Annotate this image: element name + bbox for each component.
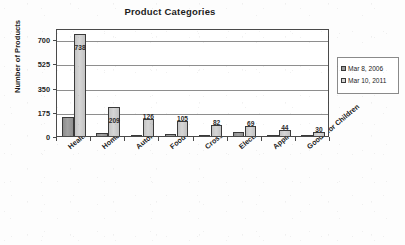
bar-value-label: 69: [247, 120, 254, 127]
bar: [96, 133, 108, 136]
x-axis-tick-mark: [295, 137, 296, 141]
bars-layer: 73820912610582694430: [57, 30, 328, 136]
y-axis-tick-label: 0: [14, 133, 50, 142]
x-axis-tick-mark: [124, 137, 125, 141]
y-axis-tick-label: 700: [14, 36, 50, 45]
bar-value-label: 105: [177, 115, 188, 122]
bar: [233, 132, 245, 136]
bar: [211, 125, 223, 136]
legend-item: Mar 10, 2011: [341, 77, 396, 84]
x-axis-tick-mark: [329, 137, 330, 141]
bar: [165, 134, 177, 136]
plot-area: 73820912610582694430: [56, 29, 329, 137]
legend-item: Mar 8, 2006: [341, 65, 396, 72]
bar: [143, 119, 155, 136]
y-axis-title: Number of Products: [13, 2, 22, 112]
chart-title: Product Categories: [0, 6, 340, 17]
bar-value-label: 30: [315, 126, 322, 133]
bar-value-label: 44: [281, 124, 288, 131]
bar: [177, 121, 189, 136]
bar: [267, 135, 279, 136]
chart-legend: Mar 8, 2006Mar 10, 2011: [337, 57, 399, 94]
y-axis-tick-label: 350: [14, 85, 50, 94]
y-axis-tick-label: 525: [14, 60, 50, 69]
y-axis-tick-label: 175: [14, 109, 50, 118]
legend-label: Mar 10, 2011: [348, 77, 386, 84]
x-axis-tick-mark: [90, 137, 91, 141]
bar: [301, 135, 313, 136]
bar: [62, 117, 74, 136]
legend-swatch-icon: [341, 66, 346, 71]
x-axis-tick-mark: [158, 137, 159, 141]
legend-swatch-icon: [341, 78, 346, 83]
bar-value-label: 738: [75, 44, 86, 51]
x-axis-tick-mark: [261, 137, 262, 141]
chart-figure: Product Categories Number of Products 01…: [0, 0, 405, 245]
bar-value-label: 209: [109, 117, 120, 124]
x-axis-tick-mark: [227, 137, 228, 141]
bar-value-label: 126: [143, 113, 154, 120]
x-axis-tick-mark: [56, 137, 57, 141]
x-axis-tick-mark: [193, 137, 194, 141]
bar: [199, 135, 211, 136]
bar: [245, 126, 257, 136]
legend-label: Mar 8, 2006: [348, 65, 383, 72]
bar-value-label: 82: [213, 119, 220, 126]
bar: [131, 135, 143, 136]
